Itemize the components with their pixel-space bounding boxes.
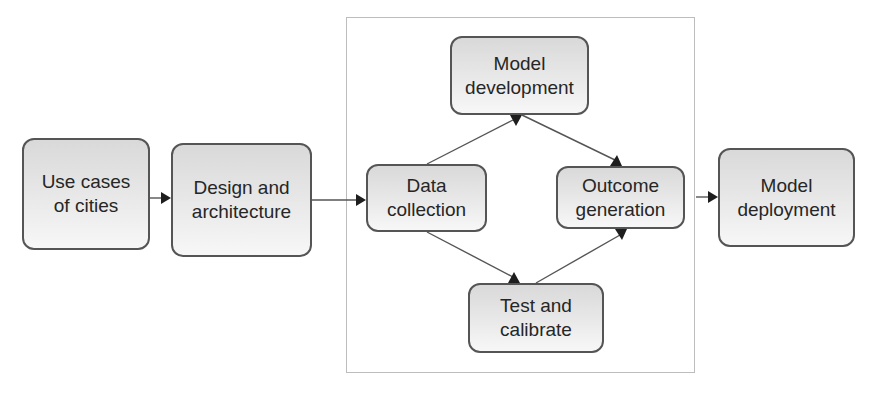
edge-data-to-model-development — [427, 120, 513, 164]
arrowhead-outcome-bottom — [615, 229, 627, 240]
node-label: Model development — [465, 52, 574, 100]
node-outcome-generation: Outcome generation — [556, 166, 685, 229]
arrowhead-design — [161, 192, 171, 204]
arrowhead-data-collection — [356, 194, 366, 206]
node-label: Test and calibrate — [500, 294, 572, 342]
node-label: Model deployment — [737, 174, 835, 222]
node-test-and-calibrate: Test and calibrate — [468, 283, 604, 353]
node-label: Data collection — [387, 174, 466, 222]
node-design-and-architecture: Design and architecture — [171, 143, 312, 257]
node-label: Design and architecture — [192, 176, 291, 224]
arrowhead-deployment — [708, 191, 718, 203]
node-data-collection: Data collection — [366, 164, 487, 232]
edge-model-development-to-outcome — [522, 115, 615, 160]
arrowhead-test — [508, 272, 520, 283]
node-label: Use cases of cities — [42, 170, 131, 218]
node-use-cases-of-cities: Use cases of cities — [22, 138, 150, 250]
edge-data-to-test — [427, 232, 513, 277]
arrowhead-outcome-top — [610, 155, 622, 166]
node-model-deployment: Model deployment — [718, 148, 855, 247]
edge-test-to-outcome — [536, 235, 620, 283]
node-label: Outcome generation — [576, 174, 666, 222]
node-model-development: Model development — [450, 36, 589, 115]
